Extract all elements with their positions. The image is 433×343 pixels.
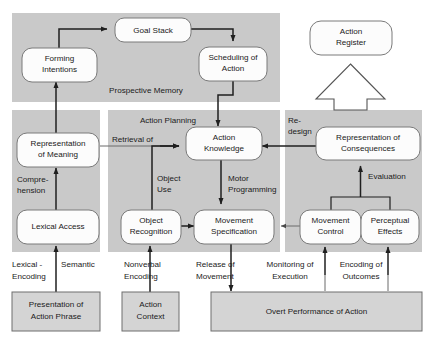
node-perceptual-effects[interactable]: Perceptual Effects [361, 210, 419, 244]
node-overt-performance-of-action[interactable]: Overt Performance of Action [211, 292, 422, 331]
svg-text:Compre-: Compre- [17, 175, 49, 184]
node-movement-control[interactable]: Movement Control [300, 210, 361, 244]
node-label-action-knowledge-1: Action [213, 133, 236, 142]
node-label-action-context-2: Context [137, 312, 166, 321]
edge-label-semantic: Semantic [61, 260, 95, 269]
svg-text:Release of: Release of [196, 260, 235, 269]
node-forming-intentions[interactable]: Forming Intentions [22, 48, 97, 82]
edge-label-retrieval-of: Retrieval of [112, 135, 154, 144]
node-label-scheduling-2: Action [222, 64, 245, 73]
node-label-action-context-1: Action [139, 300, 162, 309]
svg-text:Retrieval of: Retrieval of [112, 135, 154, 144]
node-representation-of-meaning[interactable]: Representation of Meaning [17, 133, 99, 167]
svg-text:Evaluation: Evaluation [368, 172, 406, 181]
node-label-rep-consequences-2: Consequences [341, 144, 395, 153]
node-label-rep-meaning-2: of Meaning [38, 150, 78, 159]
svg-text:Nonverbal: Nonverbal [124, 260, 161, 269]
node-label-perceptual-effects-2: Effects [378, 227, 403, 236]
node-label-goal-stack: Goal Stack [133, 26, 174, 35]
node-label-movement-spec-2: Specification [211, 227, 257, 236]
node-label-presentation-1: Presentation of [29, 300, 84, 309]
svg-text:Encoding: Encoding [12, 272, 46, 281]
edge-label-lexical-encoding: Lexical - Encoding [12, 260, 46, 281]
node-movement-specification[interactable]: Movement Specification [194, 210, 274, 244]
node-label-object-recognition-1: Object [139, 216, 163, 225]
node-goal-stack[interactable]: Goal Stack [115, 18, 191, 42]
node-label-movement-control-1: Movement [312, 216, 351, 225]
node-label-action-register-2: Register [336, 38, 366, 47]
svg-text:Monitoring of: Monitoring of [267, 260, 315, 269]
edge-label-monitoring-of-execution: Monitoring of Execution [267, 260, 315, 281]
node-representation-of-consequences[interactable]: Representation of Consequences [316, 127, 420, 160]
node-lexical-access[interactable]: Lexical Access [17, 210, 99, 244]
node-action-knowledge[interactable]: Action Knowledge [186, 127, 262, 160]
node-label-perceptual-effects-1: Perceptual [371, 216, 410, 225]
svg-text:design: design [288, 127, 312, 136]
node-label-rep-consequences-1: Representation of [336, 133, 401, 142]
action-register-up-arrow-icon [316, 64, 385, 110]
edge-label-release-of-movement: Release of Movement [196, 260, 235, 281]
svg-text:Movement: Movement [196, 272, 235, 281]
node-label-action-register-1: Action [340, 27, 363, 36]
svg-text:Motor: Motor [228, 174, 249, 183]
node-action-context[interactable]: Action Context [122, 292, 179, 331]
svg-text:Use: Use [157, 185, 172, 194]
svg-text:Execution: Execution [272, 272, 308, 281]
edge-label-nonverbal-encoding: Nonverbal Encoding [124, 260, 161, 281]
node-presentation-of-action-phrase[interactable]: Presentation of Action Phrase [12, 292, 100, 331]
svg-text:Lexical -: Lexical - [12, 260, 42, 269]
svg-text:Encoding: Encoding [124, 272, 158, 281]
node-scheduling-of-action[interactable]: Scheduling of Action [199, 47, 267, 81]
node-label-overt-performance: Overt Performance of Action [266, 307, 368, 316]
action-model-diagram: Prospective Memory Action Planning [0, 0, 433, 343]
node-label-action-knowledge-2: Knowledge [204, 144, 245, 153]
node-label-forming-intentions-1: Forming [45, 54, 75, 63]
node-label-presentation-2: Action Phrase [31, 312, 82, 321]
svg-text:Outcomes: Outcomes [343, 272, 380, 281]
node-label-rep-meaning-1: Representation [31, 139, 86, 148]
node-label-lexical-access: Lexical Access [31, 222, 84, 231]
svg-text:hension: hension [17, 186, 45, 195]
svg-text:Re-: Re- [288, 116, 301, 125]
svg-text:Semantic: Semantic [61, 260, 95, 269]
svg-text:Encoding of: Encoding of [340, 260, 384, 269]
node-label-object-recognition-2: Recognition [130, 227, 173, 236]
edge-label-evaluation: Evaluation [368, 172, 406, 181]
svg-text:Object: Object [157, 174, 181, 183]
node-label-forming-intentions-2: Intentions [42, 65, 77, 74]
node-label-movement-control-2: Control [317, 227, 343, 236]
node-label-movement-spec-1: Movement [215, 216, 254, 225]
svg-text:Programming: Programming [228, 185, 277, 194]
node-action-register[interactable]: Action Register [310, 21, 392, 55]
node-label-scheduling-1: Scheduling of [208, 53, 258, 62]
band-label-prospective-memory: Prospective Memory [109, 86, 184, 95]
band-label-action-planning: Action Planning [140, 116, 196, 125]
edge-label-encoding-of-outcomes: Encoding of Outcomes [340, 260, 384, 281]
node-object-recognition[interactable]: Object Recognition [121, 210, 181, 244]
